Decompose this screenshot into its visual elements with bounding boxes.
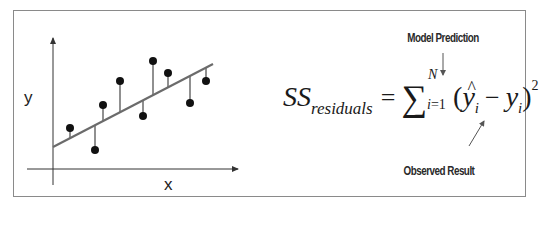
- data-point: [99, 101, 107, 109]
- data-point: [202, 77, 210, 85]
- formula-minus: −: [485, 83, 500, 112]
- data-point: [66, 124, 74, 132]
- data-points: [66, 57, 210, 154]
- upper-limit: N: [428, 68, 437, 82]
- observed-result-label: Observed Result: [401, 165, 476, 177]
- data-point: [139, 112, 147, 120]
- residual-lines: [70, 61, 206, 150]
- data-point: [91, 146, 99, 154]
- formula-equals: =: [381, 83, 396, 112]
- data-point: [116, 77, 124, 85]
- formula-lhs: SS: [283, 81, 311, 112]
- lower-limit: i=1: [427, 98, 446, 112]
- data-point: [186, 99, 194, 107]
- open-paren: (: [453, 81, 462, 112]
- x-axis-label: x: [164, 176, 173, 193]
- exponent: 2: [532, 78, 539, 93]
- y-axis-label: y: [24, 89, 33, 106]
- data-point: [164, 69, 172, 77]
- model-prediction-label: Model Prediction: [402, 32, 484, 44]
- lower-limit-eq: =1: [431, 97, 446, 112]
- y-observed-var: y: [506, 81, 518, 112]
- observed-result-arrow: [469, 121, 484, 146]
- data-point: [149, 57, 157, 65]
- sigma-symbol: ∑: [401, 78, 427, 118]
- y-observed-index: i: [518, 100, 522, 116]
- hat-mark: ^: [467, 79, 475, 97]
- y-hat-index: i: [475, 100, 479, 116]
- y-hat: ^y: [462, 83, 474, 111]
- formula-lhs-subscript: residuals: [311, 99, 373, 118]
- ss-residuals-formula: SSresiduals=∑Ni=1(^yi−yi)2: [283, 76, 539, 112]
- close-paren: ): [522, 81, 531, 112]
